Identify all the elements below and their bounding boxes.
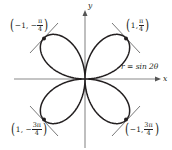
point-upper-left — [42, 37, 46, 41]
y-axis-label: y — [88, 2, 92, 10]
point-label-upper-left: ( −1, − π4 ) — [9, 18, 49, 33]
equation-label: r = sin 2θ — [121, 63, 158, 71]
x-axis-arrow-icon — [155, 77, 161, 82]
x-axis-label: x — [163, 75, 167, 83]
point-label-lower-left: ( 1, − 3π4 ) — [10, 122, 48, 137]
point-label-upper-right: ( 1, π4 ) — [125, 18, 150, 33]
y-axis-arrow-icon — [83, 10, 88, 16]
point-upper-right — [124, 37, 128, 41]
point-label-lower-right: ( −1, 3π4 ) — [124, 122, 160, 137]
